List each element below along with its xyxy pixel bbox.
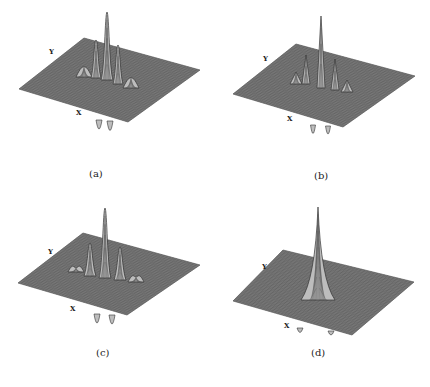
panel-a-surface-plot (19, 12, 200, 131)
figure: Y X (a) Y X (b) Y X (c) Y X (d) (0, 0, 430, 387)
panel-d-surface-plot (233, 207, 414, 335)
panel-a-y-axis-label: Y (48, 47, 55, 56)
panel-d-y-axis-label: Y (261, 262, 268, 271)
surface-dip (107, 121, 113, 131)
panel-a-x-axis-label: X (76, 108, 82, 117)
panel-c-surface-plot (18, 208, 200, 324)
panel-c-y-axis-label: Y (47, 247, 54, 256)
panel-c-caption: (c) (96, 347, 110, 358)
panel-a-caption: (a) (89, 168, 103, 179)
surface-dip (109, 315, 115, 324)
surface-dip (328, 331, 334, 335)
surface-dip (311, 125, 316, 134)
surface-dip (94, 314, 100, 323)
panel-b-x-axis-label: X (287, 114, 293, 123)
panel-d-x-axis-label: X (284, 321, 290, 330)
panel-d-caption: (d) (311, 347, 325, 358)
surface-dip (297, 328, 303, 333)
panel-b-y-axis-label: Y (262, 54, 269, 63)
panel-b-caption: (b) (314, 170, 328, 181)
surface-dip (96, 120, 102, 129)
panel-c-x-axis-label: X (70, 304, 76, 313)
surface-dip (326, 126, 331, 134)
panel-b-surface-plot (233, 16, 415, 134)
